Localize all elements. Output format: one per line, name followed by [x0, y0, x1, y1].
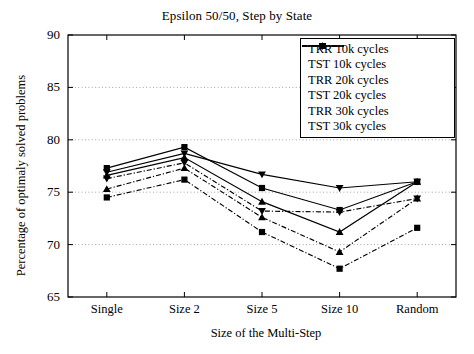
- legend: TRR 10k cycles TST 10k cycles TRR 20k cy…: [300, 38, 455, 138]
- data-marker-triangle-up: [336, 248, 344, 255]
- data-marker-triangle-up: [258, 198, 266, 205]
- data-marker-square: [104, 194, 110, 200]
- legend-swatch-tst-30k: [301, 39, 345, 53]
- legend-item: TST 10k cycles: [304, 57, 451, 73]
- data-marker-square: [259, 185, 265, 191]
- series-line: [107, 180, 417, 269]
- series-trr-20k-cycles: [103, 154, 421, 235]
- series-line: [107, 153, 417, 188]
- data-marker-square: [181, 144, 187, 150]
- series-line: [107, 158, 417, 232]
- legend-label: TST 10k cycles: [304, 58, 386, 71]
- data-marker-square: [414, 225, 420, 231]
- data-marker-triangle-down: [258, 208, 266, 215]
- data-marker-triangle-down: [103, 176, 111, 183]
- legend-label: TRR 20k cycles: [304, 74, 389, 87]
- legend-item: TRR 20k cycles: [304, 72, 451, 88]
- legend-item: TST 20k cycles: [304, 88, 451, 104]
- data-marker-triangle-up: [336, 228, 344, 235]
- legend-label: TRR 30k cycles: [304, 105, 389, 118]
- data-marker-triangle-down: [336, 185, 344, 192]
- legend-label: TST 20k cycles: [304, 89, 386, 102]
- figure: Epsilon 50/50, Step by State Percentage …: [0, 0, 474, 354]
- data-marker-triangle-down: [181, 160, 189, 167]
- legend-item: TST 30k cycles: [304, 119, 451, 135]
- legend-label: TST 30k cycles: [304, 120, 386, 133]
- data-marker-square: [337, 266, 343, 272]
- legend-item: TRR 30k cycles: [304, 103, 451, 119]
- data-marker-square: [181, 177, 187, 183]
- data-marker-square: [259, 229, 265, 235]
